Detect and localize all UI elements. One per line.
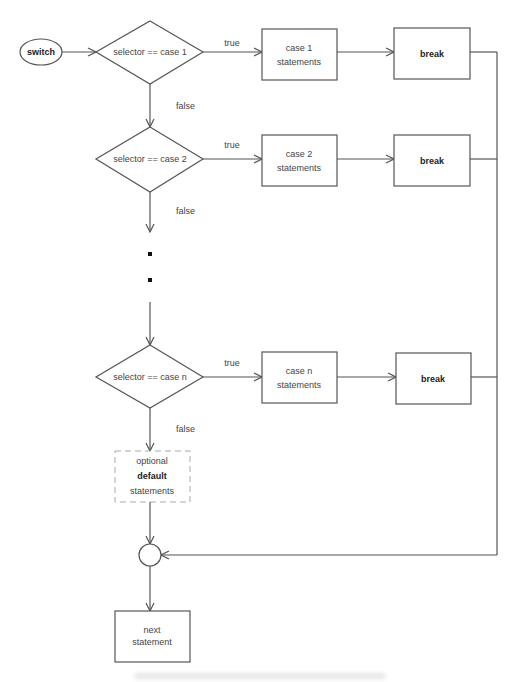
true-label-n: true [224,358,240,368]
switch-start-node: switch [20,39,62,65]
join-connector [139,544,161,566]
case-1-line2: statements [277,57,322,67]
ellipsis-dot-1 [148,252,152,256]
decision-1-label: selector == case 1 [113,47,187,57]
decision-case-n: selector == case n [96,345,203,408]
break-1-label: break [420,49,445,59]
decision-n-label: selector == case n [113,372,187,382]
switch-flowchart: switch selector == case 1 true case 1 st… [0,0,517,682]
ellipsis-dot-2 [148,278,152,282]
case-2-line1: case 2 [286,149,313,159]
default-line2: default [137,471,167,481]
default-statements-box: optional default statements [115,451,190,502]
false-label-1: false [176,101,195,111]
false-label-2: false [176,206,195,216]
case-n-statements-box: case n statements [262,352,337,403]
case-2-line2: statements [277,163,322,173]
figure-caption-cut-off [135,673,385,679]
next-line2: statement [132,637,172,647]
switch-label: switch [27,47,55,57]
case-1-line1: case 1 [286,43,313,53]
default-line3: statements [130,486,175,496]
decision-case-1: selector == case 1 [96,21,203,84]
case-2-statements-box: case 2 statements [262,135,337,186]
break-2-label: break [420,156,445,166]
case-n-line2: statements [277,380,322,390]
break-n-label: break [421,374,446,384]
case-1-statements-box: case 1 statements [262,29,337,80]
decision-case-2: selector == case 2 [96,127,203,192]
true-label-2: true [224,140,240,150]
default-line1: optional [136,456,168,466]
next-statement-box: next statement [115,611,190,662]
false-label-n: false [176,424,195,434]
case-n-line1: case n [286,366,313,376]
true-label-1: true [224,38,240,48]
break-n-box: break [396,353,471,404]
decision-2-label: selector == case 2 [113,154,187,164]
break-2-box: break [394,135,470,186]
break-1-box: break [394,28,470,79]
next-line1: next [143,625,161,635]
